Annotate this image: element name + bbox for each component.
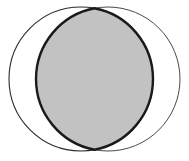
venn-diagram-svg: Two overlapping circles with shaded inte…: [0, 0, 189, 161]
figure-root: Two overlapping circles with shaded inte…: [0, 0, 189, 161]
